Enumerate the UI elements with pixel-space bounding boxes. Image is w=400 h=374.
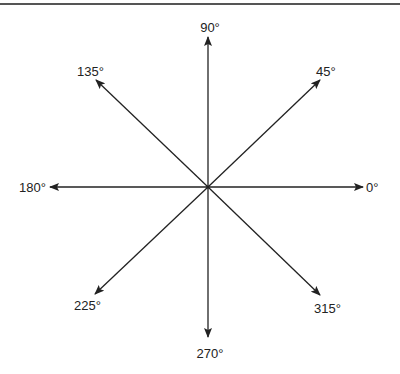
arrow-225-deg [95,187,208,294]
label-group: 0°45°90°135°180°225°270°315° [19,20,378,361]
label-270-deg: 270° [197,346,224,361]
label-90-deg: 90° [200,20,220,35]
angle-direction-diagram: 0°45°90°135°180°225°270°315° [0,0,400,374]
arrow-135-deg [96,80,208,187]
arrow-45-deg [208,80,320,187]
arrow-315-deg [208,187,320,295]
label-225-deg: 225° [74,298,101,313]
origin-point [206,185,209,188]
arrow-group [50,37,363,337]
label-45-deg: 45° [316,64,336,79]
label-135-deg: 135° [77,64,104,79]
label-180-deg: 180° [19,180,46,195]
label-315-deg: 315° [314,301,341,316]
label-0-deg: 0° [366,180,378,195]
